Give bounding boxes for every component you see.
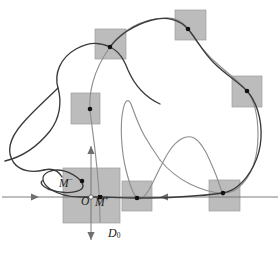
label-domain-d0: D0 — [108, 227, 120, 240]
dot-top-right — [186, 27, 191, 32]
dot-left-middle — [88, 107, 93, 112]
figure-canvas — [0, 0, 280, 255]
box-left-middle — [71, 93, 100, 124]
dot-right — [245, 89, 250, 94]
box-bottom-right — [209, 180, 240, 211]
dot-top-left — [108, 45, 113, 50]
dot-bottom-right — [221, 191, 226, 196]
origin-point — [89, 195, 93, 199]
axis-arrow-right-icon — [31, 193, 39, 200]
dot-bottom-mid — [135, 196, 140, 201]
box-top-right — [175, 10, 206, 40]
m-minus-point — [80, 179, 85, 184]
label-origin: O — [81, 196, 89, 208]
axis-arrow-up-icon — [87, 146, 94, 154]
label-m-plus: M+ — [95, 196, 109, 208]
homoclinic-tangle-figure: M− O M+ D0 — [0, 0, 280, 255]
axis-arrow-down-icon — [87, 232, 94, 240]
label-m-minus: M− — [59, 177, 73, 189]
